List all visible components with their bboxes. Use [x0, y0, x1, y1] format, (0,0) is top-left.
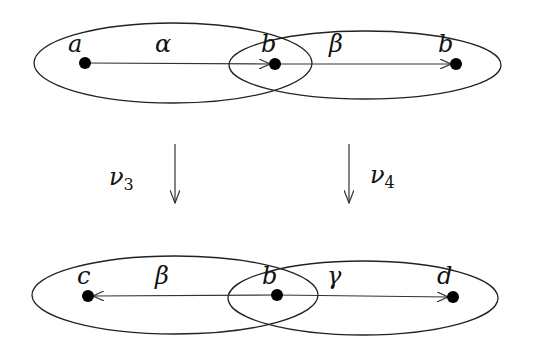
- node-b-top-right: [450, 58, 462, 70]
- node-a: [79, 57, 91, 69]
- label-nu4: ν4: [370, 161, 395, 192]
- top-row: a α b β b: [34, 23, 501, 103]
- maps: ν3 ν4: [109, 144, 395, 203]
- edge-gamma: [277, 295, 448, 297]
- label-d: d: [437, 262, 452, 290]
- diagram-canvas: a α b β b ν3 ν4 c β b γ d: [0, 0, 543, 346]
- node-b-bottom: [271, 289, 283, 301]
- label-b-bottom: b: [262, 262, 277, 290]
- label-nu3: ν3: [109, 163, 134, 194]
- edge-beta-bottom: [93, 295, 277, 296]
- node-b-top-middle: [269, 58, 281, 70]
- label-gamma: γ: [327, 262, 342, 290]
- edge-alpha: [85, 63, 270, 64]
- label-b-top-right: b: [438, 30, 453, 58]
- label-beta-bottom: β: [154, 262, 169, 290]
- node-c: [82, 290, 94, 302]
- label-beta-top: β: [328, 30, 343, 58]
- node-d: [447, 291, 459, 303]
- label-a: a: [68, 30, 82, 58]
- label-b-top-middle: b: [261, 30, 276, 58]
- label-c: c: [77, 262, 90, 290]
- bottom-row: c β b γ d: [32, 256, 498, 335]
- label-alpha: α: [155, 30, 171, 58]
